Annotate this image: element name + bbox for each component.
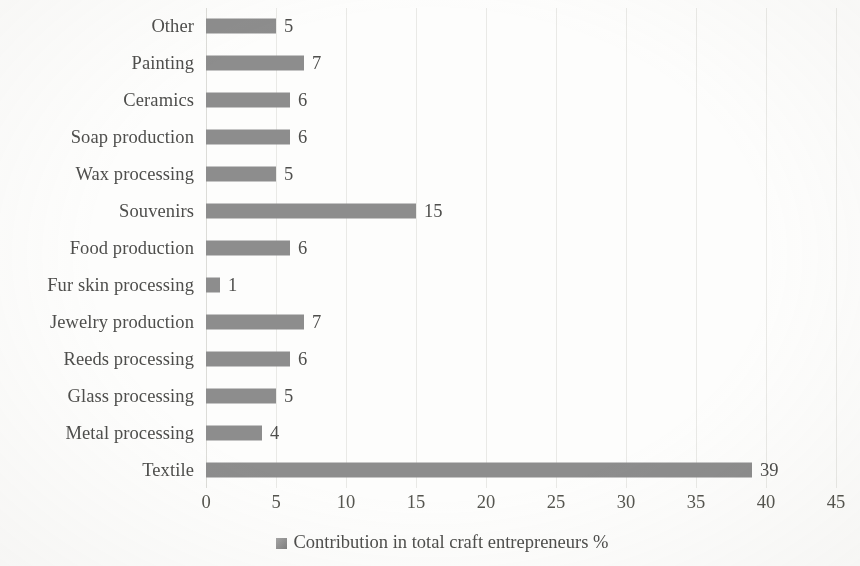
category-label: Jewelry production: [50, 311, 194, 332]
bar-row: Ceramics6: [206, 82, 836, 119]
bar-chart-figure: Other5Painting7Ceramics6Soap production6…: [0, 0, 860, 566]
bar: [206, 351, 290, 366]
category-label: Fur skin processing: [47, 274, 194, 295]
bar-value-label: 39: [760, 459, 779, 480]
bar: [206, 314, 304, 329]
bar-row: Other5: [206, 8, 836, 45]
bar-row: Jewelry production7: [206, 303, 836, 340]
bar-value-label: 6: [298, 348, 307, 369]
bar-row: Reeds processing6: [206, 340, 836, 377]
bar: [206, 130, 290, 145]
x-tick-label: 15: [407, 492, 426, 513]
bar: [206, 425, 262, 440]
bar-row: Glass processing5: [206, 377, 836, 414]
bar-value-label: 5: [284, 385, 293, 406]
category-label: Glass processing: [68, 385, 194, 406]
bar-value-label: 5: [284, 164, 293, 185]
bar: [206, 56, 304, 71]
category-label: Soap production: [71, 127, 194, 148]
bar: [206, 204, 416, 219]
bar-value-label: 6: [298, 237, 307, 258]
bar-value-label: 5: [284, 16, 293, 37]
plot-area: Other5Painting7Ceramics6Soap production6…: [206, 8, 836, 488]
legend-item-label: Contribution in total craft entrepreneur…: [294, 532, 609, 553]
legend-swatch-icon: [276, 538, 287, 549]
bar: [206, 388, 276, 403]
x-tick-label: 30: [617, 492, 636, 513]
category-label: Ceramics: [123, 90, 194, 111]
x-tick-label: 20: [477, 492, 496, 513]
bar-value-label: 6: [298, 90, 307, 111]
x-tick-label: 5: [271, 492, 280, 513]
bar: [206, 19, 276, 34]
category-label: Wax processing: [75, 164, 194, 185]
x-tick-label: 10: [337, 492, 356, 513]
x-tick-label: 40: [757, 492, 776, 513]
category-label: Other: [151, 16, 194, 37]
x-axis: 051015202530354045: [206, 492, 836, 520]
category-label: Painting: [132, 53, 194, 74]
x-tick-label: 35: [687, 492, 706, 513]
bar-row: Metal processing4: [206, 414, 836, 451]
category-label: Souvenirs: [119, 201, 194, 222]
bar-row: Fur skin processing1: [206, 266, 836, 303]
bar-value-label: 7: [312, 53, 321, 74]
gridline-45: [836, 8, 837, 488]
category-label: Food production: [70, 237, 194, 258]
bar-row: Wax processing5: [206, 156, 836, 193]
bar: [206, 240, 290, 255]
bar-value-label: 7: [312, 311, 321, 332]
x-tick-label: 45: [827, 492, 846, 513]
bar: [206, 93, 290, 108]
bar: [206, 462, 752, 477]
bar-row: Textile39: [206, 451, 836, 488]
category-label: Metal processing: [66, 422, 195, 443]
category-label: Textile: [142, 459, 194, 480]
chart-legend: Contribution in total craft entrepreneur…: [0, 532, 860, 553]
bar-value-label: 4: [270, 422, 279, 443]
bar-row: Souvenirs15: [206, 193, 836, 230]
x-tick-label: 25: [547, 492, 566, 513]
bar-row: Food production6: [206, 230, 836, 267]
bar-row: Soap production6: [206, 119, 836, 156]
x-tick-label: 0: [201, 492, 210, 513]
category-label: Reeds processing: [63, 348, 194, 369]
bar-value-label: 1: [228, 274, 237, 295]
bar: [206, 277, 220, 292]
bar-value-label: 6: [298, 127, 307, 148]
bar: [206, 167, 276, 182]
bar-value-label: 15: [424, 201, 443, 222]
bar-row: Painting7: [206, 45, 836, 82]
